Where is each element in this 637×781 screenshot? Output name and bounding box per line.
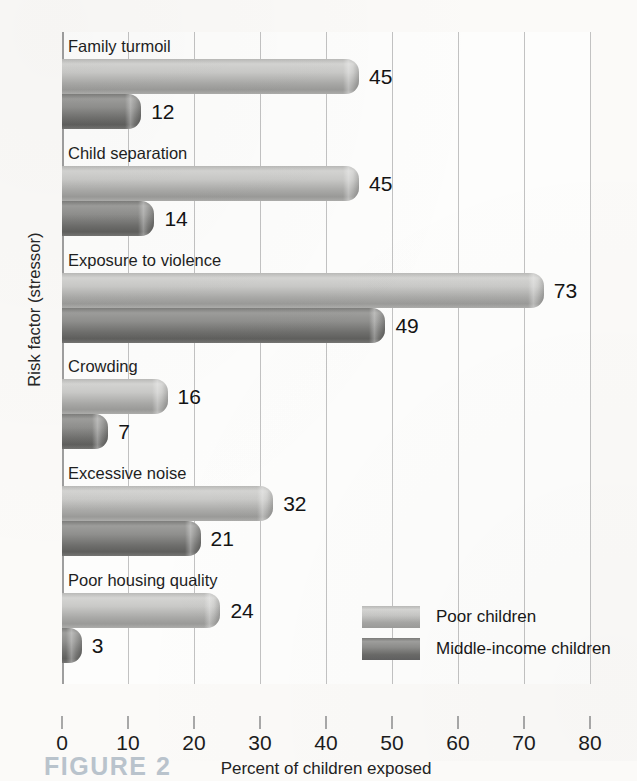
tick-mark-40 — [325, 716, 327, 729]
x-tick-label-70: 70 — [512, 731, 535, 755]
bar-mid — [62, 521, 201, 556]
legend-label-poor: Poor children — [436, 607, 536, 627]
category-label: Family turmoil — [68, 38, 171, 55]
tick-mark-50 — [391, 716, 393, 729]
bar-value-label: 49 — [395, 315, 418, 336]
bar-group: Child separation4514 — [62, 139, 590, 246]
bar-value-label: 21 — [211, 528, 234, 549]
bar-mid — [62, 628, 82, 663]
bar-value-label: 45 — [369, 173, 392, 194]
category-label: Excessive noise — [68, 465, 186, 482]
tick-mark-80 — [589, 716, 591, 729]
tick-mark-60 — [457, 716, 459, 729]
bar-group: Excessive noise3221 — [62, 459, 590, 566]
bar-value-label: 32 — [283, 493, 306, 514]
bar-value-label: 14 — [164, 208, 187, 229]
x-tick-label-30: 30 — [248, 731, 271, 755]
category-label: Child separation — [68, 145, 187, 162]
bar-group: Family turmoil4512 — [62, 32, 590, 139]
bar-mid — [62, 201, 154, 236]
bar-value-label: 24 — [230, 600, 253, 621]
bar-value-label: 73 — [554, 280, 577, 301]
bar-poor — [62, 379, 168, 414]
bar-poor — [62, 593, 220, 628]
bar-poor — [62, 59, 359, 94]
x-tick-label-80: 80 — [578, 731, 601, 755]
tick-mark-70 — [523, 716, 525, 729]
bar-value-label: 3 — [92, 635, 104, 656]
tick-mark-0 — [61, 716, 63, 729]
bar-mid — [62, 308, 385, 343]
bar-group: Exposure to violence7349 — [62, 246, 590, 353]
plot-area: 01020304050607080 Family turmoil4512Chil… — [62, 32, 590, 684]
bar-poor — [62, 166, 359, 201]
figure-caption: FIGURE 2 — [44, 752, 171, 781]
x-tick-label-60: 60 — [446, 731, 469, 755]
bar-poor — [62, 273, 544, 308]
legend-swatch-icon-middle-income — [362, 638, 420, 660]
tick-mark-20 — [193, 716, 195, 729]
legend-item-middle-income-children: Middle-income children — [362, 633, 611, 665]
category-label: Poor housing quality — [68, 572, 218, 589]
tick-mark-30 — [259, 716, 261, 729]
category-label: Exposure to violence — [68, 252, 221, 269]
bar-group: Crowding167 — [62, 352, 590, 459]
tick-mark-10 — [127, 716, 129, 729]
category-label: Crowding — [68, 358, 138, 375]
bar-mid — [62, 414, 108, 449]
legend-swatch-icon-poor — [362, 606, 420, 628]
x-tick-label-20: 20 — [182, 731, 205, 755]
gridline-80 — [590, 32, 591, 684]
bar-mid — [62, 94, 141, 129]
bar-value-label: 12 — [151, 101, 174, 122]
x-tick-label-50: 50 — [380, 731, 403, 755]
bar-poor — [62, 486, 273, 521]
bar-value-label: 45 — [369, 66, 392, 87]
x-tick-label-40: 40 — [314, 731, 337, 755]
bar-value-label: 7 — [118, 421, 130, 442]
legend-item-poor-children: Poor children — [362, 601, 611, 633]
legend: Poor children Middle-income children — [362, 601, 611, 665]
bar-value-label: 16 — [178, 386, 201, 407]
legend-label-middle-income: Middle-income children — [436, 639, 611, 659]
y-axis-title: Risk factor (stressor) — [25, 190, 44, 430]
